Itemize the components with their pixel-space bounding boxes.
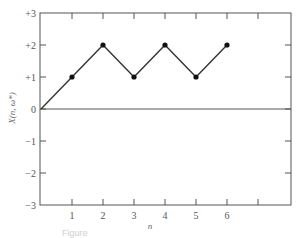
data-point: [224, 42, 229, 47]
y-tick-label: +3: [25, 8, 36, 19]
x-tick-label: 5: [194, 210, 199, 221]
y-tick-label: −1: [25, 136, 36, 147]
y-tick-label: +1: [25, 72, 36, 83]
data-point: [131, 74, 136, 79]
chart: 123456−3−2−10+1+2+3 n X(n, ω*) Figure: [0, 0, 303, 238]
data-point: [193, 74, 198, 79]
x-tick-label: 1: [70, 210, 75, 221]
x-axis-label: n: [148, 221, 153, 231]
figure-caption: Figure: [62, 228, 88, 238]
x-tick-label: 2: [101, 210, 106, 221]
y-axis-label: X(n, ω*): [7, 92, 17, 124]
x-tick-label: 4: [163, 210, 168, 221]
x-tick-label: 3: [132, 210, 137, 221]
data-point: [162, 42, 167, 47]
y-tick-label: 0: [31, 104, 36, 115]
data-point: [69, 74, 74, 79]
y-tick-label: +2: [25, 40, 36, 51]
data-point: [100, 42, 105, 47]
y-tick-label: −2: [25, 168, 36, 179]
y-tick-label: −3: [25, 200, 36, 211]
x-tick-label: 6: [225, 210, 230, 221]
